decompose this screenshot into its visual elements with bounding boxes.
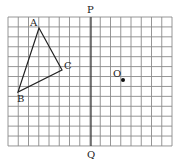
label-b: B xyxy=(17,93,24,104)
triangle-abc xyxy=(18,28,62,92)
label-o: O xyxy=(113,68,121,79)
label-a: A xyxy=(29,17,38,28)
point-o xyxy=(121,78,125,82)
label-p: P xyxy=(87,4,94,15)
grid-lines xyxy=(8,17,172,146)
grid-diagram: P Q A C B O xyxy=(0,0,182,162)
label-c: C xyxy=(64,60,72,71)
label-q: Q xyxy=(87,149,95,160)
